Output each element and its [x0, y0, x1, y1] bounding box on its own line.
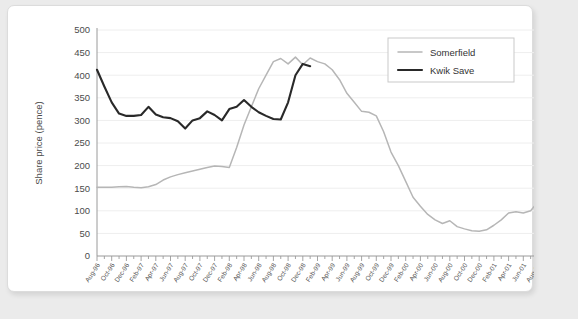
x-axis-tick-label: Aug-00: [436, 261, 454, 283]
x-axis-tick-label: Feb-98: [216, 261, 233, 283]
y-axis-tick-label: 150: [74, 183, 90, 194]
y-axis-tick-label: 250: [74, 137, 90, 148]
y-axis-tick-labels: 050100150200250300350400450500: [74, 24, 90, 261]
y-axis-tick-label: 500: [74, 24, 90, 35]
y-axis-tick-label: 450: [74, 47, 90, 58]
y-axis-tick-label: 300: [74, 115, 90, 126]
x-axis-tick-label: Aug-96: [84, 261, 102, 283]
y-axis-tick-label: 350: [74, 92, 90, 103]
x-axis-tick-label: Feb-99: [304, 261, 321, 283]
x-axis-tick-label: Aug-99: [348, 261, 366, 283]
x-axis-tick-label: Aug-97: [172, 261, 190, 283]
y-axis-tick-label: 100: [74, 205, 90, 216]
x-axis-tick-labels: Aug-96Oct-96Dec-96Feb-97Apr-97Jun-97Aug-…: [84, 261, 534, 283]
y-axis-title: Share price (pence): [33, 101, 44, 184]
y-axis-tick-label: 50: [79, 228, 90, 239]
share-price-line-chart: 050100150200250300350400450500 Aug-96Oct…: [8, 6, 534, 293]
series-line-kwik-save: [97, 64, 310, 129]
chart-panel: 050100150200250300350400450500 Aug-96Oct…: [7, 5, 533, 292]
y-axis-tick-label: 200: [74, 160, 90, 171]
series-line-somerfield: [97, 57, 534, 231]
x-axis-tick-label: Aug-98: [260, 261, 278, 283]
legend-label: Somerfield: [430, 47, 475, 58]
x-axis-tick-marks: [97, 256, 534, 261]
chart-legend: SomerfieldKwik Save: [388, 38, 514, 82]
data-series-group: [97, 57, 534, 231]
chart-plot-container: 050100150200250300350400450500 Aug-96Oct…: [8, 6, 534, 293]
legend-label: Kwik Save: [430, 65, 474, 76]
y-axis-tick-label: 0: [85, 250, 90, 261]
x-axis-tick-label: Feb-00: [392, 261, 409, 283]
x-axis-tick-label: Feb-97: [128, 261, 145, 283]
x-axis-tick-label: Feb-01: [481, 261, 498, 283]
y-axis-tick-label: 400: [74, 70, 90, 81]
